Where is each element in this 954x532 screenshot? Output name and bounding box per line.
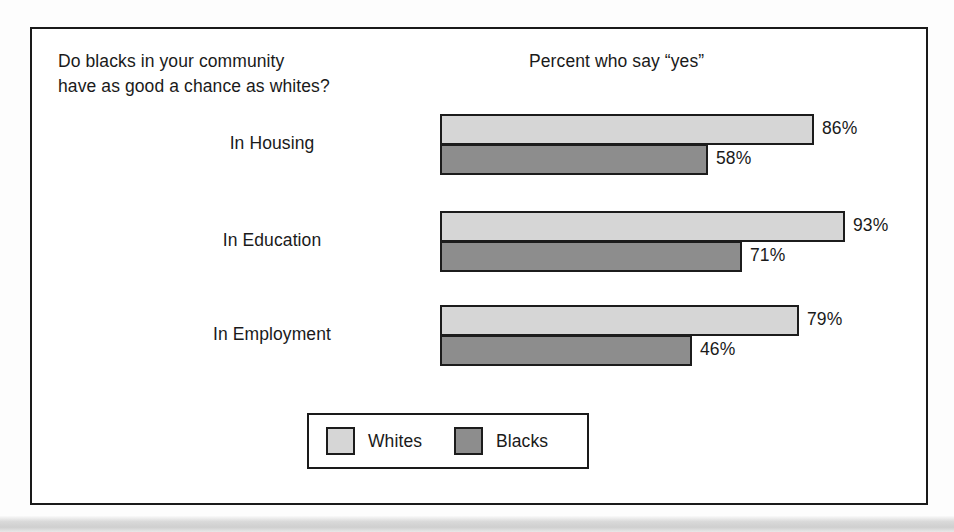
scan-bottom-artifact-band xyxy=(0,516,954,532)
bar-education-blacks[interactable] xyxy=(440,241,742,272)
bar-housing-whites[interactable] xyxy=(440,114,814,145)
bar-value-education-blacks: 71% xyxy=(750,245,785,266)
legend-label-whites: Whites xyxy=(368,431,422,452)
chart-figure-frame: Do blacks in your community have as good… xyxy=(30,27,928,505)
category-label-housing: In Housing xyxy=(132,133,412,154)
legend-entry-whites[interactable]: Whites xyxy=(326,427,422,455)
category-label-employment: In Employment xyxy=(132,324,412,345)
bar-group-education: In Education 93% 71% xyxy=(32,211,926,273)
bar-employment-whites[interactable] xyxy=(440,305,799,336)
category-label-education: In Education xyxy=(132,230,412,251)
bar-group-housing: In Housing 86% 58% xyxy=(32,114,926,176)
bar-value-employment-whites: 79% xyxy=(807,309,842,330)
legend-swatch-blacks-icon xyxy=(454,427,483,455)
bar-employment-blacks[interactable] xyxy=(440,335,692,366)
legend-swatch-whites-icon xyxy=(326,427,355,455)
bar-value-housing-whites: 86% xyxy=(822,118,857,139)
legend-label-blacks: Blacks xyxy=(496,431,548,452)
chart-legend: Whites Blacks xyxy=(307,413,589,469)
bar-group-employment: In Employment 79% 46% xyxy=(32,305,926,367)
bar-value-housing-blacks: 58% xyxy=(716,148,751,169)
bar-housing-blacks[interactable] xyxy=(440,144,708,175)
bar-value-education-whites: 93% xyxy=(853,215,888,236)
bar-education-whites[interactable] xyxy=(440,211,845,242)
bar-value-employment-blacks: 46% xyxy=(700,339,735,360)
legend-entry-blacks[interactable]: Blacks xyxy=(454,427,548,455)
